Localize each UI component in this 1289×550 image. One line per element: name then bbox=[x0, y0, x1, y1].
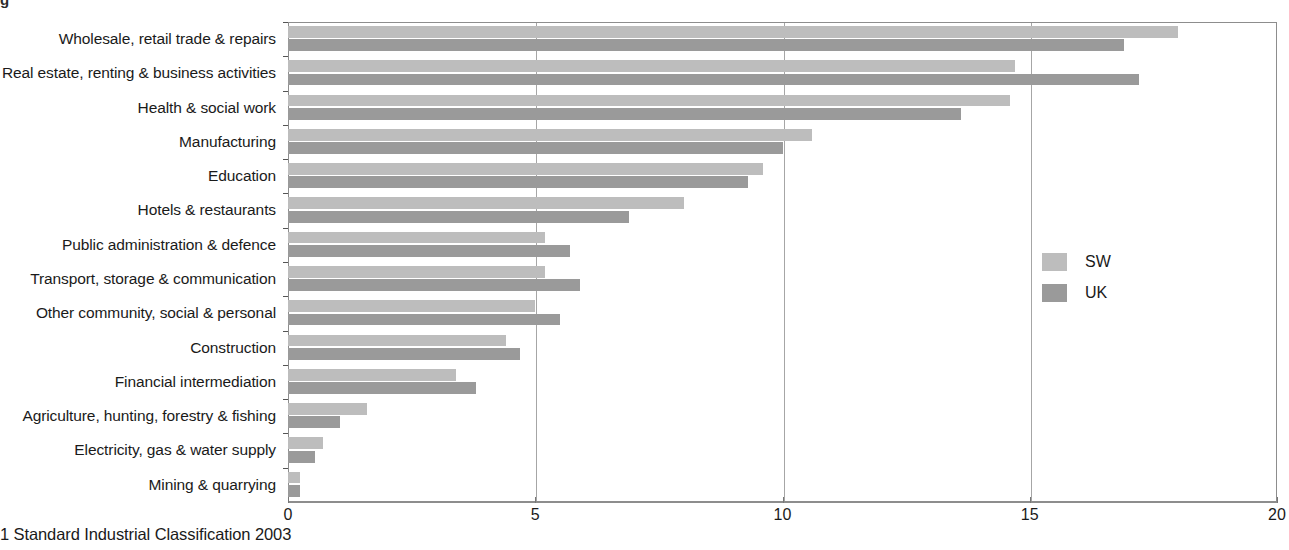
category-tick-mark bbox=[283, 468, 288, 469]
bar-sw bbox=[288, 300, 535, 312]
category-tick-mark bbox=[283, 228, 288, 229]
category-tick-mark bbox=[283, 159, 288, 160]
category-label: Agriculture, hunting, forestry & fishing bbox=[0, 399, 282, 433]
bar-group bbox=[288, 193, 1277, 227]
category-label: Construction bbox=[0, 331, 282, 365]
bar-uk bbox=[288, 382, 476, 394]
bar-sw bbox=[288, 369, 456, 381]
category-tick-mark bbox=[283, 262, 288, 263]
category-tick-mark bbox=[283, 56, 288, 57]
category-label: Education bbox=[0, 159, 282, 193]
bar-group bbox=[288, 433, 1277, 467]
bar-uk bbox=[288, 39, 1124, 51]
legend: SWUK bbox=[1042, 246, 1162, 308]
category-tick-mark bbox=[283, 193, 288, 194]
category-label: Public administration & defence bbox=[0, 228, 282, 262]
legend-item: SW bbox=[1042, 246, 1162, 277]
bar-sw bbox=[288, 472, 300, 484]
x-tick-label: 5 bbox=[531, 506, 540, 524]
category-tick-mark bbox=[283, 365, 288, 366]
bar-sw bbox=[288, 60, 1015, 72]
x-tick-label: 10 bbox=[774, 506, 792, 524]
category-label: Financial intermediation bbox=[0, 365, 282, 399]
x-tick-label: 20 bbox=[1268, 506, 1286, 524]
x-tick-mark bbox=[1277, 497, 1278, 503]
bar-sw bbox=[288, 403, 367, 415]
category-tick-mark bbox=[283, 433, 288, 434]
legend-label: SW bbox=[1085, 253, 1111, 271]
x-tick-label: 15 bbox=[1021, 506, 1039, 524]
category-label: Wholesale, retail trade & repairs bbox=[0, 22, 282, 56]
bar-uk bbox=[288, 416, 340, 428]
x-tick-mark bbox=[535, 497, 536, 503]
category-label: Hotels & restaurants bbox=[0, 193, 282, 227]
bar-uk bbox=[288, 74, 1139, 86]
category-tick-mark bbox=[283, 91, 288, 92]
bar-sw bbox=[288, 163, 763, 175]
category-axis-labels: Wholesale, retail trade & repairsReal es… bbox=[0, 22, 282, 502]
bar-sw bbox=[288, 266, 545, 278]
bar-uk bbox=[288, 108, 961, 120]
bar-group bbox=[288, 22, 1277, 56]
category-label: Electricity, gas & water supply bbox=[0, 433, 282, 467]
category-label: Transport, storage & communication bbox=[0, 262, 282, 296]
bar-sw bbox=[288, 129, 812, 141]
bar-sw bbox=[288, 437, 323, 449]
legend-swatch-icon bbox=[1042, 284, 1067, 302]
bar-uk bbox=[288, 451, 315, 463]
footnote: 1 Standard Industrial Classification 200… bbox=[0, 525, 291, 544]
bar-uk bbox=[288, 279, 580, 291]
category-label: Health & social work bbox=[0, 91, 282, 125]
category-label: Real estate, renting & business activiti… bbox=[0, 56, 282, 90]
bar-sw bbox=[288, 26, 1178, 38]
category-label: Manufacturing bbox=[0, 125, 282, 159]
category-label: Other community, social & personal bbox=[0, 296, 282, 330]
legend-label: UK bbox=[1085, 284, 1107, 302]
bar-uk bbox=[288, 245, 570, 257]
x-tick-mark bbox=[1030, 497, 1031, 503]
bar-uk bbox=[288, 314, 560, 326]
category-tick-mark bbox=[283, 22, 288, 23]
bar-group bbox=[288, 159, 1277, 193]
bar-group bbox=[288, 56, 1277, 90]
bar-uk bbox=[288, 142, 783, 154]
bar-group bbox=[288, 91, 1277, 125]
bar-sw bbox=[288, 197, 684, 209]
category-tick-mark bbox=[283, 125, 288, 126]
bar-uk bbox=[288, 211, 629, 223]
bar-sw bbox=[288, 335, 506, 347]
bar-uk bbox=[288, 176, 748, 188]
cropped-top-text: g bbox=[0, 0, 9, 8]
bar-sw bbox=[288, 95, 1010, 107]
bar-group bbox=[288, 125, 1277, 159]
category-tick-mark bbox=[283, 399, 288, 400]
bar-group bbox=[288, 399, 1277, 433]
x-tick-mark bbox=[288, 497, 289, 503]
x-tick-mark bbox=[783, 497, 784, 503]
category-tick-mark bbox=[283, 296, 288, 297]
legend-swatch-icon bbox=[1042, 253, 1067, 271]
x-tick-label: 0 bbox=[284, 506, 293, 524]
legend-item: UK bbox=[1042, 277, 1162, 308]
bar-group bbox=[288, 331, 1277, 365]
bar-chart: g Wholesale, retail trade & repairsReal … bbox=[0, 0, 1289, 550]
category-label: Mining & quarrying bbox=[0, 468, 282, 502]
bar-uk bbox=[288, 348, 520, 360]
bar-uk bbox=[288, 485, 300, 497]
bar-sw bbox=[288, 232, 545, 244]
bar-group bbox=[288, 365, 1277, 399]
category-tick-mark bbox=[283, 331, 288, 332]
